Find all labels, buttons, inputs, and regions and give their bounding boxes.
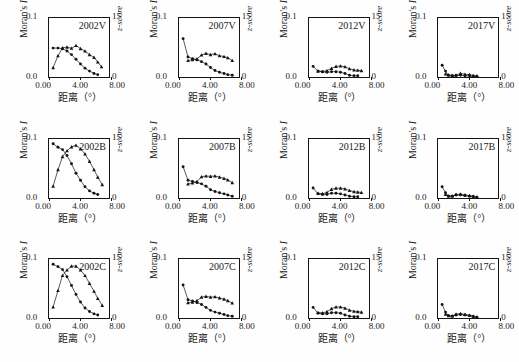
panel-inner: Moran's Iz-score0.10.01500.004.008.00距离（… [260,241,390,362]
y-axis-title-right: z-score [115,0,124,52]
x-axis-tick-mark [49,77,50,80]
series-layer [309,259,369,318]
data-point-circle [209,66,212,69]
x-axis-tick-mark [179,77,180,80]
data-point-circle [218,71,221,74]
panel-inner: Moran's Iz-score0.10.01500.004.008.00距离（… [130,121,260,242]
data-point-circle [222,313,225,316]
y-axis-title-left-symbol: I [278,0,289,3]
y-axis-max-label-left: 0.1 [415,133,426,142]
data-point-circle [96,193,99,196]
data-point-circle [352,316,355,319]
data-point-circle [339,192,342,195]
x-axis-tick-label: 8.00 [234,202,260,211]
data-point-triangle [65,45,69,48]
data-point-triangle [74,143,78,146]
x-axis-tick-label: 4.00 [67,202,93,211]
x-axis-tick-labels: 0.004.008.00 [419,81,519,90]
y-axis-max-label-left: 0.1 [156,253,167,262]
y-axis-max-label-left: 0.1 [415,12,426,21]
data-point-circle [93,313,96,316]
x-axis-tick-label: 8.00 [234,322,260,331]
x-axis-tick-label: 0.00 [290,202,316,211]
data-point-triangle [92,290,96,293]
correlogram-figure: Moran's Iz-score0.10.01500.004.008.00距离（… [0,0,519,362]
data-point-triangle [51,305,55,308]
data-point-circle [334,312,337,315]
series-layer [438,259,498,318]
data-point-circle [348,315,351,318]
x-axis-tick-label: 0.00 [290,81,316,90]
x-axis-tick-label: 4.00 [327,322,353,331]
data-point-triangle [226,178,230,181]
y-axis-max-label-left: 0.1 [286,133,297,142]
panel-inner: Moran's Iz-score0.10.01500.004.008.00距离（… [260,0,390,121]
data-point-circle [226,73,229,76]
data-point-circle [52,263,55,266]
data-point-circle [88,189,91,192]
y-axis-max-label-right: 15 [501,12,510,21]
data-point-circle [66,276,69,279]
data-point-circle [441,303,444,306]
data-point-circle [200,60,203,63]
y-axis-title-left: Moran's I [279,0,289,52]
data-point-circle [75,58,78,61]
plot-area: 2017C [437,258,499,319]
x-axis-title: 距离（°） [22,213,138,224]
x-axis-tick-labels: 0.004.008.00 [419,322,519,331]
panel-grid: Moran's Iz-score0.10.01500.004.008.00距离（… [0,0,519,362]
data-point-triangle [204,295,208,298]
panel-2007c: Moran's Iz-score0.10.01500.004.008.00距离（… [130,241,260,362]
data-point-triangle [96,297,100,300]
x-axis-title: 距离（°） [152,213,268,224]
y-axis-max-label-left: 0.1 [156,133,167,142]
x-axis-tick-mark [241,77,242,80]
y-axis-title-left-symbol: I [407,121,418,124]
x-axis-title: 距离（°） [411,333,519,344]
x-axis-tick-label: 4.00 [67,322,93,331]
x-axis-tick-label: 8.00 [493,202,519,211]
plot-area: 2017V [437,17,499,78]
y-axis-max-label-right: 15 [112,12,121,21]
panel-2012c: Moran's Iz-score0.10.01500.004.008.00距离（… [260,241,390,362]
x-axis-title: 距离（°） [152,333,268,344]
series-layer [49,139,109,198]
data-point-circle [84,67,87,70]
data-point-triangle [230,180,234,183]
plot-area: 2012V [308,17,370,78]
data-point-circle [441,64,444,67]
x-axis-tick-label: 0.00 [419,81,445,90]
x-axis-tick-label: 4.00 [197,322,223,331]
data-point-circle [330,312,333,315]
data-point-circle [88,310,91,313]
x-axis-tick-mark [49,318,50,321]
series-moran-i [181,165,233,197]
y-axis-max-label-left: 0.1 [286,253,297,262]
data-point-circle [311,306,314,309]
series-layer [49,259,109,318]
x-axis-tick-labels: 0.004.008.00 [290,202,390,211]
y-axis-title-right: z-score [244,0,253,52]
x-axis-title: 距离（°） [282,333,398,344]
x-axis-tick-mark [469,198,470,201]
data-point-circle [70,53,73,56]
x-axis-tick-mark [179,198,180,201]
panel-inner: Moran's Iz-score0.10.01500.004.008.00距离（… [130,0,260,121]
data-point-circle [181,284,184,287]
data-point-circle [226,315,229,318]
x-axis-tick-mark [500,318,501,321]
y-axis-max-label-left: 0.1 [26,12,37,21]
x-axis-tick-mark [309,318,310,321]
y-axis-max-label-left: 0.1 [26,253,37,262]
data-point-circle [343,72,346,75]
data-point-circle [57,266,60,269]
data-point-circle [79,63,82,66]
data-point-circle [96,314,99,317]
panel-2002b: Moran's Iz-score0.10.01500.004.008.00距离（… [0,121,130,242]
series-z-score [186,174,234,185]
x-axis-tick-mark [210,77,211,80]
x-axis-tick-label: 8.00 [104,202,130,211]
plot-area: 2002B [48,138,110,199]
y-axis-title-left-symbol: I [18,121,29,124]
x-axis-title: 距离（°） [22,92,138,103]
